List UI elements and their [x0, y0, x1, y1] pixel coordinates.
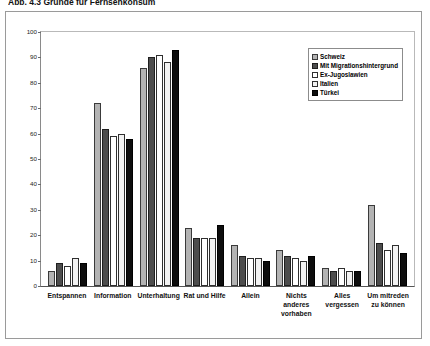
x-axis-label: Um mitreden zu können [365, 289, 411, 335]
bar [276, 250, 283, 286]
chart-frame: 1009080706050403020100 EntspannenInforma… [5, 11, 422, 339]
bar [126, 139, 133, 286]
bar [148, 57, 155, 286]
x-axis-label: Allein [228, 289, 274, 335]
bar [48, 271, 55, 286]
bar-group [228, 32, 274, 286]
bar [354, 271, 361, 286]
bar [300, 261, 307, 286]
legend-label: Ex-Jugoslawien [320, 70, 368, 79]
y-axis-tick-label: 90 [19, 54, 37, 60]
bar [338, 268, 345, 286]
legend-swatch-icon [312, 63, 318, 69]
bar [247, 258, 254, 286]
bar-group [136, 32, 182, 286]
legend-swatch-icon [312, 72, 318, 78]
bar [255, 258, 262, 286]
legend-item[interactable]: Schweiz [312, 52, 398, 61]
y-axis-tick-label: 100 [19, 29, 37, 35]
bar [185, 228, 192, 286]
y-axis-tick-label: 60 [19, 131, 37, 137]
y-axis-tick-label: 10 [19, 258, 37, 264]
y-axis-tick-label: 40 [19, 181, 37, 187]
bar [201, 238, 208, 286]
x-axis-label: Nichts anderes vorhaben [273, 289, 319, 335]
bar [292, 258, 299, 286]
bar [322, 268, 329, 286]
x-axis-label: Alles vergessen [319, 289, 365, 335]
legend-label: Mit Migrationshintergrund [320, 61, 398, 70]
bar [231, 245, 238, 286]
bar [346, 271, 353, 286]
bar [140, 68, 147, 286]
legend-item[interactable]: Italien [312, 79, 398, 88]
bar [94, 103, 101, 286]
y-axis-tick-label: 30 [19, 207, 37, 213]
y-axis-tick-label: 70 [19, 105, 37, 111]
bar-group [45, 32, 91, 286]
legend-label: Schweiz [320, 52, 345, 61]
bar [80, 263, 87, 286]
bar [308, 256, 315, 286]
legend-label: Türkei [320, 88, 339, 97]
bar [284, 256, 291, 286]
legend-item[interactable]: Mit Migrationshintergrund [312, 61, 398, 70]
y-axis-tick-label: 20 [19, 232, 37, 238]
bar [118, 134, 125, 286]
x-axis-label: Information [90, 289, 136, 335]
bar [330, 271, 337, 286]
bar [102, 129, 109, 286]
bar [56, 263, 63, 286]
bar [110, 136, 117, 286]
bar [376, 243, 383, 286]
bar [400, 253, 407, 286]
chart-page: Abb. 4.3 Gründe für Fernsehkonsum 100908… [0, 0, 430, 346]
x-axis-label: Unterhaltung [136, 289, 182, 335]
legend-swatch-icon [312, 54, 318, 60]
bar [209, 238, 216, 286]
legend-swatch-icon [312, 81, 318, 87]
legend-item[interactable]: Ex-Jugoslawien [312, 70, 398, 79]
x-axis-labels: EntspannenInformationUnterhaltungRat und… [40, 289, 415, 335]
bar [172, 50, 179, 286]
bar [263, 261, 270, 286]
bar-group [91, 32, 137, 286]
chart-legend: SchweizMit MigrationshintergrundEx-Jugos… [308, 48, 403, 101]
y-axis-tick-mark [38, 286, 41, 287]
figure-caption: Abb. 4.3 Gründe für Fernsehkonsum [8, 0, 308, 8]
bar [193, 238, 200, 286]
bar [368, 205, 375, 286]
bar [392, 245, 399, 286]
legend-item[interactable]: Türkei [312, 88, 398, 97]
bar [72, 258, 79, 286]
bar [384, 250, 391, 286]
bar-group [182, 32, 228, 286]
bar [156, 55, 163, 286]
legend-swatch-icon [312, 90, 318, 96]
y-axis-tick-label: 0 [19, 283, 37, 289]
bar [217, 225, 224, 286]
bar [239, 256, 246, 286]
y-axis-tick-label: 50 [19, 156, 37, 162]
x-axis-label: Rat und Hilfe [182, 289, 228, 335]
bar [164, 62, 171, 286]
x-axis-label: Entspannen [44, 289, 90, 335]
y-axis-tick-label: 80 [19, 80, 37, 86]
bar [64, 266, 71, 286]
legend-label: Italien [320, 79, 338, 88]
